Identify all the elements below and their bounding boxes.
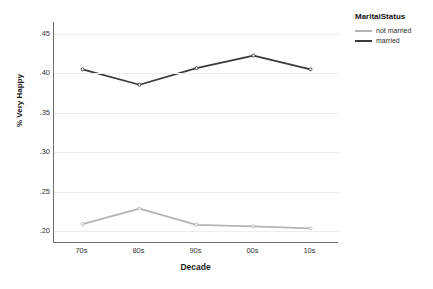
- x-axis-tick-labels: 70s80s90s00s10s: [53, 246, 338, 260]
- data-point-marker: [81, 223, 84, 226]
- data-point-marker: [252, 225, 255, 228]
- legend-title: MaritalStatus: [355, 12, 433, 21]
- legend-swatch: [355, 40, 372, 42]
- legend-entry: not married: [355, 27, 433, 34]
- series-line: [83, 56, 311, 85]
- data-point-marker: [195, 67, 198, 70]
- data-point-marker: [252, 54, 255, 57]
- legend: MaritalStatus not marriedmarried: [355, 12, 433, 47]
- data-point-marker: [138, 83, 141, 86]
- plot-area: [53, 22, 338, 243]
- y-axis-tick-label: .20: [28, 227, 50, 235]
- legend-entry: married: [355, 37, 433, 44]
- x-axis-tick-label: 70s: [62, 246, 102, 255]
- y-axis-tick-label: .35: [28, 109, 50, 117]
- series-lines: [54, 22, 339, 243]
- y-axis-tick-labels: .45.40.35.30.25.20: [26, 0, 50, 289]
- data-point-marker: [195, 223, 198, 226]
- legend-label: married: [376, 37, 400, 44]
- data-point-marker: [138, 207, 141, 210]
- x-axis-title: Decade: [53, 262, 338, 272]
- gridline: [54, 231, 339, 232]
- y-axis-tick-label: .25: [28, 188, 50, 196]
- x-axis-tick-label: 90s: [176, 246, 216, 255]
- data-point-marker: [309, 227, 312, 230]
- x-axis-tick-label: 10s: [290, 246, 330, 255]
- gridline: [54, 113, 339, 114]
- y-axis-tick-label: .45: [28, 30, 50, 38]
- x-axis-tick-label: 00s: [233, 246, 273, 255]
- x-axis-tick-label: 80s: [119, 246, 159, 255]
- y-axis-tick-label: .40: [28, 69, 50, 77]
- legend-label: not married: [376, 27, 411, 34]
- gridline: [54, 34, 339, 35]
- legend-swatch: [355, 30, 372, 32]
- gridline: [54, 152, 339, 153]
- data-point-marker: [309, 68, 312, 71]
- y-axis-title: % Very Happy: [15, 61, 24, 141]
- gridline: [54, 192, 339, 193]
- data-point-marker: [81, 68, 84, 71]
- gridline: [54, 73, 339, 74]
- chart-figure: % Very Happy .45.40.35.30.25.20 70s80s90…: [0, 0, 433, 289]
- legend-entries: not marriedmarried: [355, 27, 433, 44]
- y-axis-tick-label: .30: [28, 148, 50, 156]
